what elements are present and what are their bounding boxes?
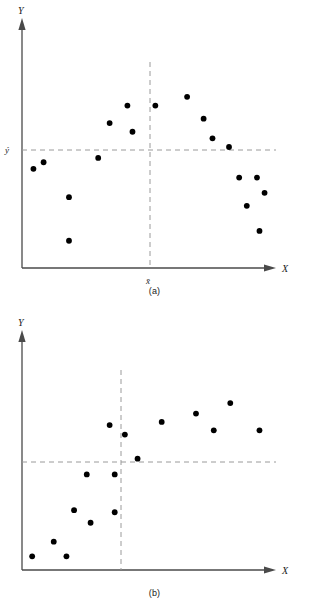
data-point (254, 175, 260, 181)
data-point (227, 400, 233, 406)
data-point (201, 116, 207, 122)
data-point (257, 427, 263, 433)
x-axis-label-a: X (281, 263, 289, 274)
data-point (262, 190, 268, 196)
data-point (236, 175, 242, 181)
data-point (210, 135, 216, 141)
y-mean-label-a: ý (4, 145, 9, 155)
y-axis-a (18, 18, 25, 268)
data-point (95, 155, 101, 161)
data-point (64, 553, 70, 559)
y-axis-label-b: Y (18, 317, 25, 328)
data-point (152, 103, 158, 109)
data-point (88, 520, 94, 526)
data-point (41, 159, 47, 165)
scatter-figure: Y X ý x̄ (a) Y (0, 0, 309, 605)
y-axis-b (18, 330, 25, 570)
data-point (211, 427, 217, 433)
data-point (193, 411, 199, 417)
x-axis-a (22, 264, 276, 271)
data-point (244, 203, 250, 209)
data-point (122, 432, 128, 438)
data-points-b (29, 400, 262, 559)
x-axis-b (22, 566, 276, 573)
caption-a: (a) (0, 286, 309, 296)
data-point (31, 166, 37, 172)
scatter-plot-b: Y X (0, 300, 309, 605)
y-axis-label-a: Y (18, 5, 25, 16)
data-point (66, 238, 72, 244)
data-point (184, 94, 190, 100)
data-point (66, 194, 72, 200)
data-point (125, 103, 131, 109)
data-point (29, 553, 35, 559)
plot-a-canvas: Y X ý x̄ (0, 0, 309, 300)
data-point (107, 120, 113, 126)
x-mean-label-a: x̄ (145, 276, 151, 286)
scatter-plot-a: Y X ý x̄ (0, 0, 309, 300)
data-point (84, 472, 90, 478)
data-point (112, 472, 118, 478)
data-point (135, 456, 141, 462)
data-point (159, 419, 165, 425)
data-point (130, 129, 136, 135)
data-point (107, 422, 113, 428)
data-points-a (31, 94, 268, 244)
data-point (112, 509, 118, 515)
data-point (257, 228, 263, 234)
data-point (51, 539, 57, 545)
caption-b: (b) (0, 588, 309, 598)
data-point (71, 507, 77, 513)
plot-b-canvas: Y X (0, 300, 309, 605)
data-point (226, 144, 232, 150)
x-axis-label-b: X (281, 565, 289, 576)
